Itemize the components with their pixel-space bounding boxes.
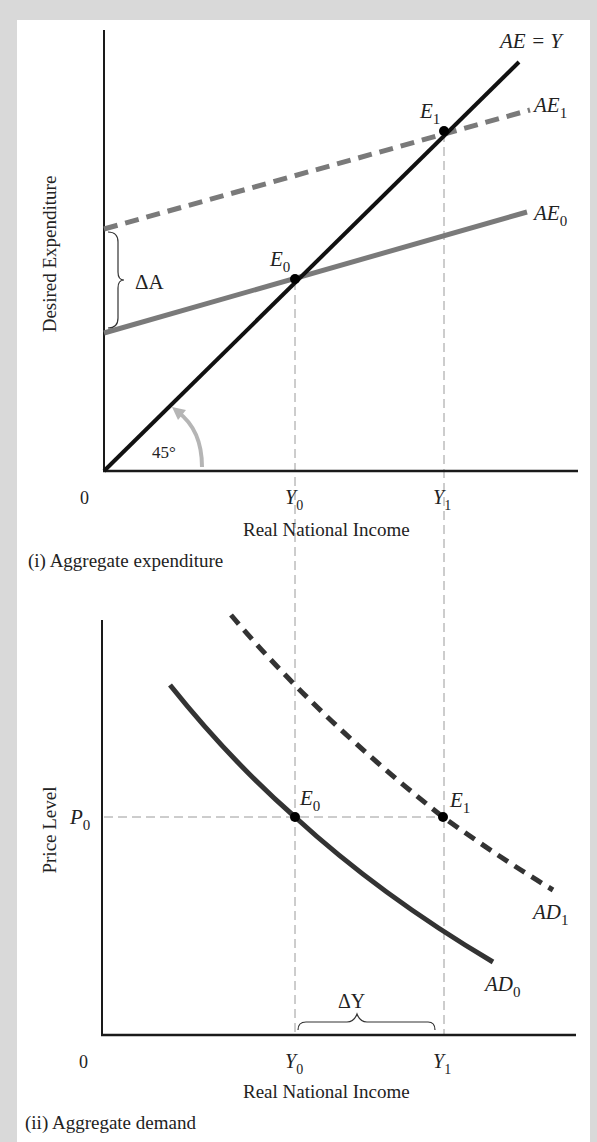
ae1-line: [104, 110, 530, 229]
label-delta-y: ΔY: [338, 990, 365, 1012]
label-delta-a: ΔA: [135, 270, 165, 294]
y-axis-label-2: Price Level: [39, 786, 60, 873]
label-45-degrees: 45°: [152, 443, 176, 462]
label-ae0: AE0: [532, 201, 567, 229]
panel-aggregate-expenditure: AE = Y AE1 AE0 E1 E0 ΔA 45° 0 Y0 Y1 Real…: [28, 29, 578, 1035]
figure-svg: AE = Y AE1 AE0 E1 E0 ΔA 45° 0 Y0 Y1 Real…: [0, 0, 597, 1142]
tick-y1: Y1: [433, 486, 451, 513]
ad1-curve: [231, 615, 553, 890]
delta-a-brace-icon: [108, 232, 124, 328]
label-e1: E1: [419, 99, 440, 127]
point-e1: [439, 126, 449, 136]
point-e1-ad: [438, 812, 448, 822]
tick-p0: P0: [69, 805, 90, 833]
panel-aggregate-demand: E0 E1 AD1 AD0 P0 ΔY 0 Y0 Y1 Real Nationa…: [25, 615, 576, 1134]
label-ae1: AE1: [532, 93, 567, 121]
label-ad1: AD1: [531, 900, 569, 928]
label-ae-equals-y: AE = Y: [498, 29, 564, 53]
label-e0-ad: E0: [299, 786, 320, 814]
x-axis-label-2: Real National Income: [243, 1081, 410, 1102]
ae0-line: [104, 212, 527, 333]
tick-y0: Y0: [285, 486, 303, 513]
origin-label-2: 0: [79, 1052, 88, 1072]
tick-y1-ad: Y1: [433, 1050, 451, 1077]
label-e0: E0: [269, 247, 290, 275]
caption-panel-1: (i) Aggregate expenditure: [28, 550, 223, 572]
label-ad0: AD0: [483, 972, 521, 1000]
point-e0: [290, 274, 300, 284]
angle-arc-icon: [178, 412, 202, 467]
delta-y-brace-icon: [298, 1014, 435, 1030]
label-e1-ad: E1: [449, 788, 470, 816]
point-e0-ad: [290, 812, 300, 822]
caption-panel-2: (ii) Aggregate demand: [25, 1112, 196, 1134]
x-axis-label: Real National Income: [243, 519, 410, 540]
y-axis-label: Desired Expenditure: [39, 176, 60, 333]
origin-label: 0: [80, 488, 89, 508]
ad0-curve: [170, 685, 493, 962]
tick-y0-ad: Y0: [285, 1050, 303, 1077]
ae-equals-y-line: [104, 62, 519, 471]
